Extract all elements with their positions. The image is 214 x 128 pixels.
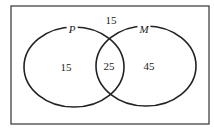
intersection-count: 25 bbox=[104, 60, 115, 72]
outside-count: 15 bbox=[106, 14, 117, 26]
m-only-count: 45 bbox=[144, 60, 155, 72]
p-only-count: 15 bbox=[61, 61, 72, 73]
set-p-label: P bbox=[67, 23, 78, 35]
set-m-label: M bbox=[137, 23, 150, 35]
